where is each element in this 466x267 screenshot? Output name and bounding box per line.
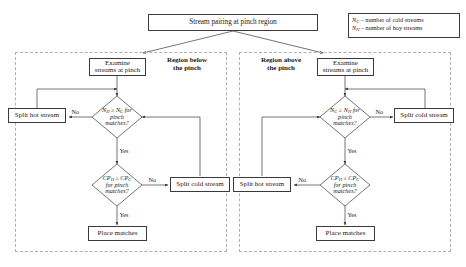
title-text: Stream pairing at pinch region bbox=[189, 19, 276, 27]
region-label-below: Region below the pinch bbox=[152, 57, 222, 73]
region-frame-above bbox=[239, 52, 451, 252]
split-cold-stream-label-below: Split cold stream bbox=[176, 181, 223, 188]
decision-cph-ge-cpc-label: CPH ≥ CPCfor pinchmatches? bbox=[84, 162, 150, 208]
region-label-above-line1: Region above bbox=[261, 56, 301, 64]
edge-label-yes2-above: Yes bbox=[347, 212, 357, 218]
decision-cph-le-cpc-label: CPH ≤ CPCfor pinchmatches? bbox=[312, 162, 378, 208]
legend-dash-hot: – bbox=[361, 24, 364, 31]
edge-label-no2-above: No bbox=[298, 177, 307, 183]
op-d1-below: ≥ bbox=[111, 106, 114, 113]
op-d2-below: ≥ bbox=[115, 174, 118, 181]
edge-label-yes1-below: Yes bbox=[119, 148, 129, 154]
decision-cph-ge-cpc[interactable]: CPH ≥ CPCfor pinchmatches? bbox=[84, 162, 150, 208]
place-matches-box-above[interactable]: Place matches bbox=[316, 226, 375, 241]
decision-nh-ge-nc-label: NH ≥ NC forpinchmatches? bbox=[84, 94, 150, 140]
examine-streams-label-above: Examinestreams at pinch bbox=[323, 60, 369, 75]
region-label-above-line2: the pinch bbox=[267, 64, 295, 72]
place-matches-label-below: Place matches bbox=[98, 230, 138, 237]
region-label-above: Region above the pinch bbox=[246, 57, 316, 73]
split-cold-stream-box-below[interactable]: Split cold stream bbox=[170, 177, 230, 192]
legend-item-cold: NC – number of cold streams bbox=[352, 16, 456, 24]
split-hot-stream-label-below: Split hot stream bbox=[15, 112, 59, 119]
decision-nc-ge-nh-label: NC ≥ NH forpinchmatches? bbox=[312, 94, 378, 140]
examine-streams-label-below: Examinestreams at pinch bbox=[95, 60, 141, 75]
examine-streams-box-below[interactable]: Examinestreams at pinch bbox=[89, 58, 146, 76]
legend-dash-cold: – bbox=[361, 16, 364, 23]
op-d1-above: ≥ bbox=[339, 106, 342, 113]
legend-box: NC – number of cold streams NH – number … bbox=[348, 13, 460, 38]
legend-symbol-nh: NH bbox=[352, 24, 359, 31]
region-label-below-line1: Region below bbox=[167, 56, 207, 64]
decision-nc-ge-nh[interactable]: NC ≥ NH forpinchmatches? bbox=[312, 94, 378, 140]
place-matches-box-below[interactable]: Place matches bbox=[88, 226, 147, 241]
examine-streams-box-above[interactable]: Examinestreams at pinch bbox=[317, 58, 374, 76]
edge-label-yes2-below: Yes bbox=[119, 212, 129, 218]
flowchart-canvas: Stream pairing at pinch region NC – numb… bbox=[0, 0, 466, 267]
decision-cph-le-cpc[interactable]: CPH ≤ CPCfor pinchmatches? bbox=[312, 162, 378, 208]
place-matches-label-above: Place matches bbox=[326, 230, 366, 237]
split-cold-stream-label-above: Split cold stream bbox=[400, 112, 447, 119]
edge-label-yes1-above: Yes bbox=[347, 148, 357, 154]
edge-label-no1-above: No bbox=[375, 109, 384, 115]
region-label-below-line2: the pinch bbox=[173, 64, 201, 72]
decision-nh-ge-nc[interactable]: NH ≥ NC forpinchmatches? bbox=[84, 94, 150, 140]
legend-symbol-nc: NC bbox=[352, 16, 359, 23]
legend-item-hot: NH – number of hoy streams bbox=[352, 24, 456, 32]
legend-text-hot: number of hoy streams bbox=[366, 24, 423, 31]
split-hot-stream-label-above: Split hot stream bbox=[240, 181, 284, 188]
op-d2-above: ≤ bbox=[343, 174, 346, 181]
split-hot-stream-box-above[interactable]: Split hot stream bbox=[233, 177, 291, 192]
split-cold-stream-box-above[interactable]: Split cold stream bbox=[394, 108, 454, 123]
edge-label-no1-below: No bbox=[71, 109, 80, 115]
split-hot-stream-box-below[interactable]: Split hot stream bbox=[8, 108, 66, 123]
title-box: Stream pairing at pinch region bbox=[148, 14, 318, 31]
legend-text-cold: number of cold streams bbox=[365, 16, 423, 23]
edge-label-no2-below: No bbox=[148, 177, 157, 183]
